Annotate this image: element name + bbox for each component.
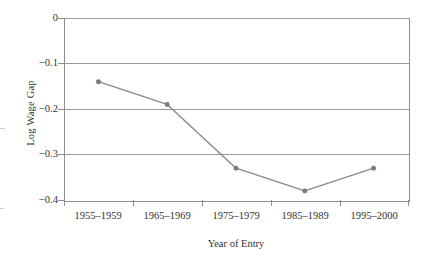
x-axis-title: Year of Entry: [64, 238, 408, 249]
data-point-1965-1969: [165, 102, 169, 106]
data-point-1995-2000: [371, 166, 375, 170]
x-tick-mark-5: [408, 200, 409, 206]
x-tick-label-1965-1969: 1965–1969: [129, 210, 205, 222]
x-tick-mark-0: [64, 200, 65, 206]
chart-figure: Log Wage Gap 0 −0.1 −0.2 −0.3 −0.4 1955–…: [0, 0, 430, 262]
x-tick-mark-4: [340, 200, 341, 206]
x-tick-mark-1: [133, 200, 134, 206]
y-tick-label-m04: −0.4: [14, 195, 58, 205]
data-point-1985-1989: [303, 189, 307, 193]
x-tick-mark-2: [202, 200, 203, 206]
y-tick-label-m03: −0.3: [14, 149, 58, 159]
x-tick-mark-3: [271, 200, 272, 206]
x-tick-label-1985-1989: 1985–1989: [267, 210, 343, 222]
x-tick-label-1955-1959: 1955–1959: [60, 210, 136, 222]
data-series-layer: [64, 18, 408, 200]
data-point-1975-1979: [234, 166, 238, 170]
y-tick-label-m01: −0.1: [14, 58, 58, 68]
data-point-1955-1959: [96, 80, 100, 84]
scan-artifact: [0, 128, 5, 129]
y-tick-label-m02: −0.2: [14, 104, 58, 114]
x-tick-label-1995-2000: 1995–2000: [336, 210, 412, 222]
series-line-log-wage-gap: [98, 82, 373, 191]
scan-artifact: [0, 208, 4, 209]
y-tick-label-0: 0: [14, 13, 58, 23]
x-tick-label-1975-1979: 1975–1979: [198, 210, 274, 222]
series-markers: [96, 80, 376, 194]
